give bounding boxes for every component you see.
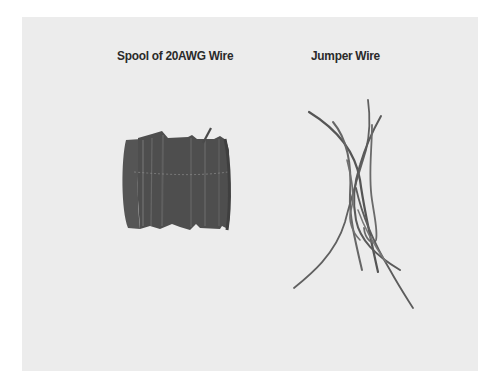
jumper-wires-image bbox=[294, 100, 413, 308]
wire-spool-image bbox=[122, 128, 230, 230]
figure-illustrations bbox=[0, 0, 496, 387]
